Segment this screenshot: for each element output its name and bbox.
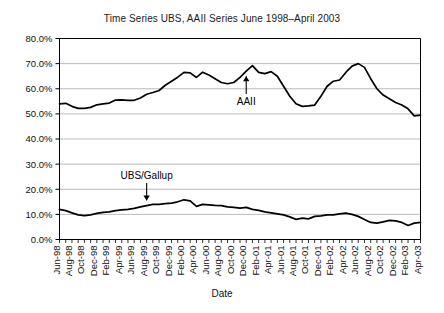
y-tick-label: 0.0%	[31, 234, 53, 245]
x-axis-ticks: Jun-98Aug-98Oct-98Dec-98Feb-99Apr-99Jun-…	[51, 240, 423, 277]
x-tick-label: Jun-99	[125, 246, 136, 275]
ubs-annotation-label: UBS/Gallup	[121, 170, 174, 181]
x-axis-title: Date	[0, 288, 444, 299]
x-tick-label: Apr-00	[187, 246, 198, 275]
chart-plot-svg: 0.0%10.0%20.0%30.0%40.0%50.0%60.0%70.0%8…	[0, 0, 444, 313]
x-tick-label: Feb-99	[100, 246, 111, 276]
x-tick-label: Jun-01	[275, 246, 286, 275]
aaii-arrow-head-icon	[243, 76, 249, 81]
x-tick-label: Apr-02	[337, 246, 348, 275]
y-tick-label: 40.0%	[26, 133, 53, 144]
x-tick-label: Aug-00	[212, 246, 223, 277]
y-tick-label: 10.0%	[26, 209, 53, 220]
x-tick-label: Dec-99	[163, 246, 174, 277]
ubs-arrow-head-icon	[143, 195, 149, 200]
x-tick-label: Oct-01	[299, 246, 310, 275]
x-tick-label: Feb-02	[324, 246, 335, 276]
y-tick-label: 80.0%	[26, 33, 53, 44]
x-tick-label: Aug-01	[287, 246, 298, 277]
x-tick-label: Jun-02	[349, 246, 360, 275]
x-tick-label: Apr-03	[412, 246, 423, 275]
x-tick-label: Dec-98	[88, 246, 99, 277]
x-tick-label: Dec-02	[387, 246, 398, 277]
x-tick-label: Jun-00	[200, 246, 211, 275]
x-tick-label: Oct-00	[225, 246, 236, 275]
aaii-annotation-label: AAII	[237, 96, 256, 107]
chart-container: Time Series UBS, AAII Series June 1998–A…	[0, 0, 444, 313]
y-tick-label: 30.0%	[26, 159, 53, 170]
series-line-aaii	[60, 64, 421, 116]
x-tick-label: Feb-03	[399, 246, 410, 276]
x-tick-label: Feb-00	[175, 246, 186, 276]
y-tick-label: 20.0%	[26, 184, 53, 195]
x-tick-label: Aug-99	[138, 246, 149, 277]
series-group	[60, 64, 421, 226]
series-line-ubs-gallup	[60, 200, 421, 226]
x-tick-label: Oct-99	[150, 246, 161, 275]
x-tick-label: Aug-98	[63, 246, 74, 277]
annotations-group: AAIIUBS/Gallup	[121, 76, 256, 200]
x-tick-label: Apr-99	[113, 246, 124, 275]
y-axis-ticks: 0.0%10.0%20.0%30.0%40.0%50.0%60.0%70.0%8…	[26, 33, 60, 245]
x-tick-label: Oct-98	[75, 246, 86, 275]
y-tick-label: 70.0%	[26, 58, 53, 69]
y-tick-label: 50.0%	[26, 108, 53, 119]
x-tick-label: Aug-02	[362, 246, 373, 277]
x-tick-label: Apr-01	[262, 246, 273, 275]
x-tick-label: Dec-01	[312, 246, 323, 277]
x-tick-label: Jun-98	[51, 246, 62, 275]
x-tick-label: Dec-00	[237, 245, 248, 276]
x-tick-label: Feb-01	[250, 246, 261, 276]
y-tick-label: 60.0%	[26, 83, 53, 94]
x-tick-label: Oct-02	[374, 246, 385, 275]
gridlines-group	[60, 39, 421, 240]
